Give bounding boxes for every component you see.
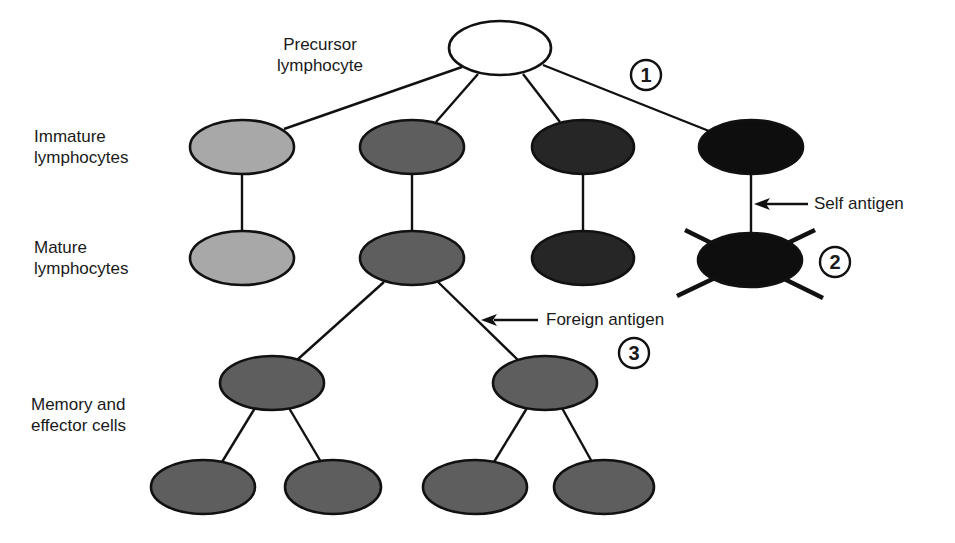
memory-cell — [493, 356, 597, 410]
edge-mature-memory-1 — [297, 282, 384, 360]
precursor-label-line2: lymphocyte — [265, 55, 375, 76]
step-2-number: 2 — [820, 250, 850, 274]
effector-cell — [554, 460, 654, 514]
edge-memory1-effector-1 — [222, 408, 255, 462]
mature-lymphocyte-cell — [360, 231, 464, 285]
foreign-antigen-label: Foreign antigen — [546, 309, 664, 330]
precursor-lymphocyte-cell — [449, 21, 551, 75]
memory-cell — [220, 356, 324, 410]
effector-cell — [151, 460, 255, 514]
self-antigen-label: Self antigen — [814, 193, 904, 214]
immature-label-line1: Immature — [34, 126, 128, 147]
immature-label: Immature lymphocytes — [34, 126, 128, 168]
edge-memory2-effector-4 — [562, 408, 592, 462]
mature-lymphocyte-cell — [532, 231, 634, 285]
step-3-number: 3 — [619, 341, 649, 365]
step-1-number: 1 — [631, 63, 661, 87]
clonal-selection-diagram — [0, 0, 955, 543]
memory-effector-label: Memory and effector cells — [31, 394, 126, 436]
foreign-antigen-arrow — [481, 314, 538, 326]
immature-lymphocyte-cell — [360, 120, 464, 174]
memory-effector-label-line1: Memory and — [31, 394, 126, 415]
immature-lymphocyte-cell — [532, 120, 634, 174]
effector-cell — [423, 460, 527, 514]
precursor-label-line1: Precursor — [265, 34, 375, 55]
edge-precursor-immature-1 — [284, 67, 462, 129]
mature-label: Mature lymphocytes — [34, 237, 128, 279]
immature-lymphocyte-cell — [699, 120, 803, 174]
immature-label-line2: lymphocytes — [34, 147, 128, 168]
memory-effector-label-line2: effector cells — [31, 415, 126, 436]
edge-precursor-immature-3 — [523, 74, 560, 122]
immature-lymphocyte-cell — [190, 120, 294, 174]
mature-label-line2: lymphocytes — [34, 258, 128, 279]
deleted-self-reactive-cell — [698, 233, 802, 287]
mature-lymphocyte-cell — [190, 231, 294, 285]
precursor-label: Precursor lymphocyte — [265, 34, 375, 76]
edge-memory2-effector-3 — [494, 408, 527, 462]
mature-label-line1: Mature — [34, 237, 128, 258]
edge-precursor-immature-2 — [436, 74, 478, 122]
edge-memory1-effector-2 — [289, 408, 321, 462]
cell-nodes — [151, 21, 803, 514]
self-antigen-arrow — [754, 198, 808, 210]
effector-cell — [285, 460, 381, 514]
